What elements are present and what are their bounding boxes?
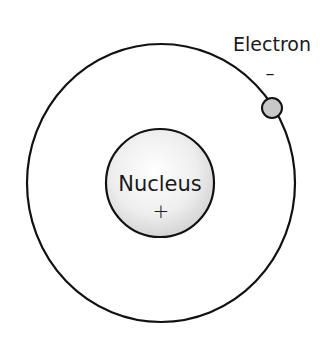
atom-diagram: Nucleus + Electron – <box>0 0 329 348</box>
nucleus-label: Nucleus <box>118 172 202 196</box>
electron-label: Electron <box>233 33 311 55</box>
nucleus-charge: + <box>153 199 170 223</box>
electron-circle <box>262 98 282 118</box>
nucleus: Nucleus + <box>106 129 214 237</box>
electron-charge: – <box>266 62 275 83</box>
